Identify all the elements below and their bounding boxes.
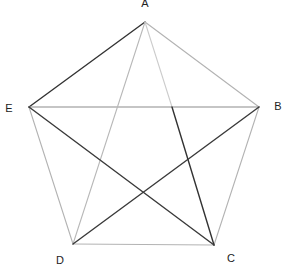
edge-ec [29, 107, 214, 245]
edge-fc [172, 107, 214, 245]
edge-ad [73, 22, 145, 244]
vertex-label-e: E [5, 102, 12, 114]
pentagon-diagram: A B C D E [0, 0, 284, 265]
edge-bc [214, 107, 259, 245]
edge-ea [29, 22, 145, 107]
edges-group [29, 22, 259, 245]
labels-group: A B C D E [5, 0, 281, 265]
edge-de [29, 107, 73, 244]
edge-ab [145, 22, 259, 107]
edge-cd [73, 244, 214, 245]
vertex-label-a: A [141, 0, 149, 9]
vertex-label-c: C [227, 252, 235, 264]
vertex-label-b: B [274, 100, 281, 112]
vertex-label-d: D [56, 254, 64, 265]
edge-db [73, 107, 259, 244]
edge-af [145, 22, 172, 107]
